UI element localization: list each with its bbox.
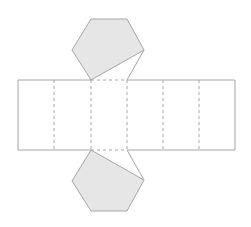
hexagonal-prism-net <box>0 0 251 227</box>
